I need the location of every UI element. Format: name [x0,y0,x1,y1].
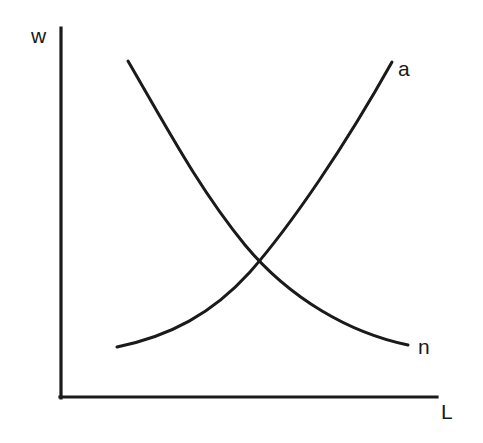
curve-a-path [117,62,392,347]
chart-canvas: w L a n [0,0,483,443]
curve-n-path [128,61,408,345]
curve-label-a: a [398,57,410,80]
chart-figure: w L a n [0,0,483,443]
y-axis-label: w [30,24,47,47]
x-axis-label: L [441,400,453,423]
curve-label-n: n [418,335,430,358]
